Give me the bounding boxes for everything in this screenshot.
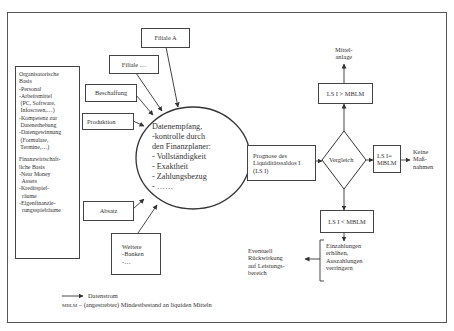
less-label: LS I < MBLM <box>328 218 366 225</box>
equal-label: LS I= MBLM <box>377 152 397 167</box>
decision-label: Vergleich <box>329 156 353 163</box>
circle-text: Datenempfang, -kontrolle durch den Finan… <box>152 122 211 192</box>
source-beschaffung: Beschaffung <box>85 84 137 102</box>
beschaffung-label: Beschaffung <box>95 89 127 96</box>
basis-box: Organisatorische Basis -Personal -Arbeit… <box>15 66 80 259</box>
source-filiale-more: Filiale … <box>109 55 159 74</box>
source-weitere: Weitere -Banken -… <box>111 233 161 275</box>
filiale-a-label: Filiale A <box>154 34 176 41</box>
legend-arrow-label: Datenstrom <box>88 292 118 299</box>
source-absatz: Absatz <box>83 201 134 221</box>
source-produktion: Produktion <box>82 113 134 130</box>
equal-box: LS I= MBLM <box>373 145 401 173</box>
organisational-basis-text: Organisatorische Basis -Personal -Arbeit… <box>19 71 61 150</box>
legend-mblm-abbr: MBLM <box>62 303 77 308</box>
greater-label: LS I > MBLM <box>327 90 365 97</box>
less-result: Eventuell Rückwirkung auf Leistungs- ber… <box>248 247 285 277</box>
produktion-label: Produktion <box>87 118 115 125</box>
absatz-label: Absatz <box>100 207 118 214</box>
prognose-box: Prognose des Liquiditätssaldos I (LS I) <box>247 145 316 181</box>
less-box: LS I < MBLM <box>320 210 374 233</box>
prognose-label: Prognose des Liquiditätssaldos I (LS I) <box>253 152 300 174</box>
less-action: Einzahlungen erhöhen, Auszahlungen verri… <box>326 242 363 272</box>
legend-mblm: MBLM – (angestrebter) Mindestbestand an … <box>62 301 212 309</box>
weitere-label: Weitere -Banken -… <box>122 243 144 265</box>
filiale-more-label: Filiale … <box>122 61 146 68</box>
greater-box: LS I > MBLM <box>318 83 373 104</box>
equal-result: Keine Maß- nahmen <box>413 148 433 170</box>
legend-mblm-definition: – (angestrebter) Mindestbestand an liqui… <box>77 301 212 308</box>
greater-result: Mittel- anlage <box>335 46 353 61</box>
source-filiale-a: Filiale A <box>141 28 190 48</box>
financial-basis-text: Finanzwirtschaft- liche Basis -Near Mone… <box>19 156 61 213</box>
